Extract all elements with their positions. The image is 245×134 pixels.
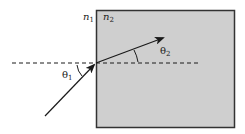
n1-label: n1 — [83, 11, 94, 24]
incident-ray — [45, 65, 94, 116]
refraction-diagram: n1 n2 θ1 θ2 — [0, 0, 245, 134]
theta1-arc — [77, 65, 82, 76]
medium-2-block — [97, 11, 235, 128]
theta1-label: θ1 — [62, 69, 73, 82]
